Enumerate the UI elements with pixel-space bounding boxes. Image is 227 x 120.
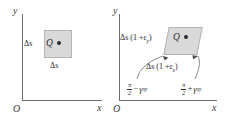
leader-line-right — [195, 56, 199, 79]
origin-label-left: O — [13, 104, 20, 114]
strain-element-figure: y O x Q Δs Δs y O x Q Δs (1 +εy) Δs (1 +… — [0, 0, 227, 120]
dimension-label-bottom: Δs — [50, 62, 58, 70]
point-q-dot-left — [57, 41, 61, 45]
leader-lines-overlay — [113, 0, 226, 120]
panel-undeformed-element: y O x Q Δs Δs — [0, 0, 113, 120]
x-axis-line-left — [22, 100, 102, 101]
dimension-label-left-side: Δs — [24, 40, 32, 48]
y-axis-label-left: y — [13, 6, 17, 16]
leader-line-left — [137, 56, 163, 79]
arrowhead-left-corner — [163, 56, 168, 60]
y-axis-line-left — [22, 14, 23, 100]
arrowhead-right-corner — [192, 55, 198, 59]
x-axis-label-left: x — [97, 103, 101, 113]
panel-deformed-element: y O x Q Δs (1 +εy) Δs (1 +εx) π 2 − γxy … — [113, 0, 226, 120]
point-q-label-left: Q — [46, 39, 53, 49]
